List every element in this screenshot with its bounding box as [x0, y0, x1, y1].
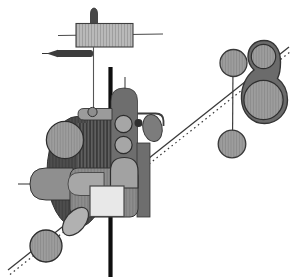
- egg-ellipse: [140, 113, 164, 144]
- artwork-canvas: [0, 0, 292, 279]
- tower-circle-2: [115, 136, 132, 153]
- right-upper-circle: [220, 50, 247, 77]
- left-capsule: [30, 168, 73, 200]
- small-dark-dot: [135, 119, 143, 127]
- blob-lower-circle: [244, 80, 283, 119]
- left-circle: [46, 121, 83, 158]
- bullet-knob: [91, 8, 98, 24]
- bottom-left-circle: [30, 230, 62, 262]
- tower-circle-1: [115, 115, 132, 132]
- right-lower-circle: [218, 130, 246, 158]
- hatched-panel: [76, 24, 133, 48]
- pendant-dot: [88, 107, 97, 116]
- blob-upper-circle: [251, 44, 275, 68]
- right-dark-bar: [137, 143, 150, 217]
- light-square: [90, 186, 124, 217]
- arch-shape: [111, 158, 139, 189]
- abstract-composition: [0, 0, 292, 279]
- pencil-body: [56, 50, 93, 57]
